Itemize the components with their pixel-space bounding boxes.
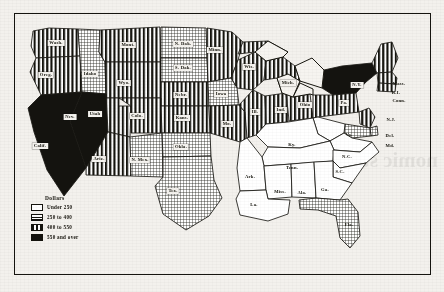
state-pennsylvania[interactable]: [313, 93, 359, 118]
state-label-minn: Minn.: [207, 47, 223, 53]
legend-label-high: 400 to 550: [47, 224, 72, 230]
state-label-n-j: N.J.: [387, 118, 396, 123]
state-label-mont: Mont.: [120, 42, 136, 48]
state-label-r-i: R.I.: [392, 91, 400, 96]
state-label-ark: Ark.: [245, 175, 255, 180]
state-label-okla: Okla.: [173, 144, 188, 150]
legend-swatch-high: [31, 224, 43, 231]
state-label-n-mex: N. Mex.: [130, 157, 150, 163]
state-label-n-c: N.C.: [342, 155, 352, 160]
state-wyoming[interactable]: [105, 62, 161, 98]
legend-item-under: Under 250: [31, 203, 79, 212]
state-label-s-c: S.C.: [335, 170, 344, 175]
state-label-wis: Wis.: [243, 64, 256, 70]
state-label-tenn: Tenn.: [286, 166, 298, 171]
state-label-idaho: Idaho: [82, 71, 98, 77]
state-label-iowa: Iowa: [214, 91, 228, 97]
state-label-n-dak: N. Dak.: [173, 41, 193, 47]
state-label-ky: Ky.: [288, 143, 296, 148]
state-label-ga: Ga.: [321, 188, 329, 193]
state-label-mich: Mich.: [280, 80, 296, 86]
state-label-md: Md.: [386, 144, 395, 149]
legend-label-mid: 250 to 400: [47, 214, 72, 220]
legend-label-under: Under 250: [47, 204, 72, 210]
state-label-wash: Wash.: [48, 40, 65, 46]
state-new-mexico[interactable]: [130, 133, 163, 177]
state-label-pa: Pa.: [339, 100, 349, 106]
united-states-map-svg: [0, 0, 444, 292]
state-new-jersey[interactable]: [359, 108, 375, 128]
state-label-colo: Colo.: [130, 113, 145, 119]
state-texas[interactable]: [155, 156, 222, 230]
state-label-miss: Miss.: [274, 190, 286, 195]
scanned-page: nomic stimulus: [0, 0, 444, 292]
state-label-wyo: Wyo.: [117, 80, 131, 86]
state-label-s-dak: S. Dak.: [173, 65, 192, 71]
state-label-del: Del.: [386, 134, 395, 139]
state-label-oreg: Oreg.: [38, 72, 53, 78]
state-label-ariz: Ariz.: [92, 156, 106, 162]
state-label-calif: Calif.: [32, 143, 48, 149]
state-label-kans: Kans.: [174, 115, 190, 121]
legend-item-mid: 250 to 400: [31, 213, 79, 222]
states-layer: [28, 27, 398, 248]
state-new-york[interactable]: [322, 63, 377, 95]
legend-item-high: 400 to 550: [31, 223, 79, 232]
map-canvas: Wash.Oreg.IdahoMont.Wyo.N. Dak.S. Dak.Ne…: [0, 0, 444, 292]
state-arkansas[interactable]: [237, 138, 266, 191]
state-label-nebr: Nebr.: [173, 92, 188, 98]
legend-title: Dollars: [45, 195, 79, 201]
legend-rows: Under 250250 to 400400 to 550550 and ove…: [31, 203, 79, 242]
map-legend: Dollars Under 250250 to 400400 to 550550…: [31, 195, 79, 243]
state-label-ind: Ind.: [275, 107, 287, 113]
state-label-va: Va.: [345, 133, 352, 138]
state-label-mo: Mo.: [221, 121, 233, 127]
state-label-fla: Fla.: [345, 223, 354, 228]
legend-swatch-top: [31, 234, 43, 241]
state-label-n-y: N.Y.: [351, 82, 364, 88]
state-new-england-n[interactable]: [372, 42, 398, 73]
legend-label-top: 550 and over: [47, 234, 79, 240]
state-label-ala: Ala.: [297, 191, 306, 196]
state-label-nev: Nev.: [64, 114, 77, 120]
legend-item-top: 550 and over: [31, 233, 79, 242]
state-label-mass: Mass.: [393, 82, 406, 87]
state-label-ohio: Ohio: [298, 102, 312, 108]
legend-swatch-under: [31, 204, 43, 211]
legend-swatch-mid: [31, 214, 43, 221]
state-label-tex: Tex.: [167, 188, 179, 194]
state-label-conn: Conn.: [392, 99, 405, 104]
state-label-ill: Ill.: [250, 109, 260, 115]
state-label-utah: Utah: [88, 111, 102, 117]
state-label-la: La.: [250, 203, 257, 208]
